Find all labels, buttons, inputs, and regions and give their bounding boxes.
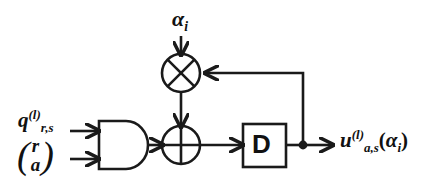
output-arg-open-paren: ( [379,128,386,152]
and-gate-body [99,121,148,169]
delay-block-label: D [252,131,271,157]
output-label: u(l)a,s(αi) [340,128,408,154]
vector-top: r [32,136,39,155]
output-superscript: (l) [352,127,364,142]
output-arg-alpha: α [386,128,398,152]
figure-canvas: αi q(l)r,s ( r a ) D u(l)a,s(αi) [0,0,422,189]
output-subscript: a,s [364,140,379,155]
output-arg-close-paren: ) [401,128,408,152]
junction-dot [299,141,308,150]
output-symbol: u [340,128,352,152]
vector-input-label: ( r a ) [17,136,54,175]
q-input-label: q(l)r,s [18,108,53,134]
vector-stack: r a [30,136,42,175]
q-subscript: r,s [41,120,54,135]
vector-bottom: a [31,155,41,174]
vector-close-paren: ) [41,142,54,169]
alpha-subscript: i [184,19,188,34]
q-symbol: q [18,108,29,132]
alpha-input-label: αi [172,8,188,34]
q-superscript: (l) [29,107,41,122]
vector-open-paren: ( [17,142,30,169]
alpha-symbol: α [172,6,184,31]
block-diagram [0,0,422,189]
